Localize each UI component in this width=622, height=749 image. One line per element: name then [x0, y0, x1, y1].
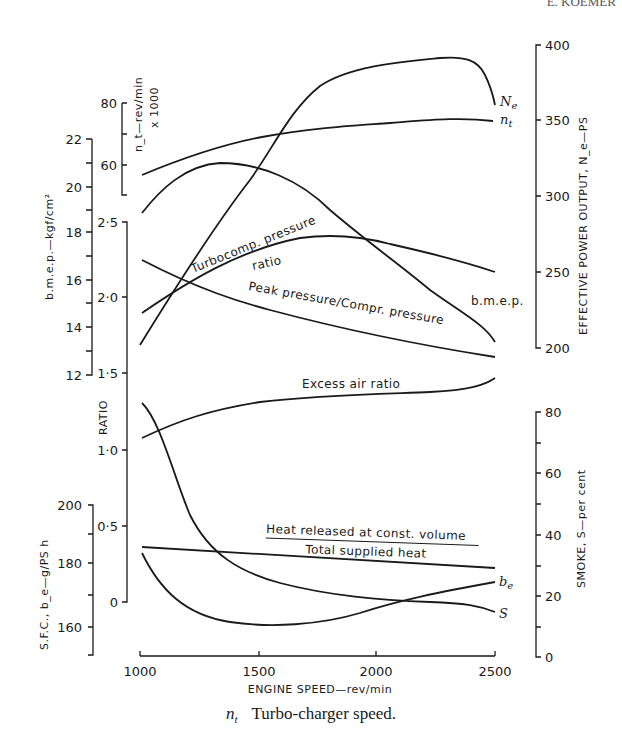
svg-text:400: 400 [545, 38, 570, 53]
svg-text:2500: 2500 [478, 664, 511, 679]
svg-text:14: 14 [65, 320, 82, 335]
svg-text:20: 20 [65, 180, 82, 195]
bmep-axis-label: b.m.e.p.—kgf/cm² [43, 193, 56, 300]
svg-text:250: 250 [545, 265, 570, 280]
svg-text:1·5: 1·5 [97, 366, 118, 381]
sfc-axis: 200 180 160 S.F.C., b_e—g/PS h [38, 498, 93, 655]
power-axis: 400 350 300 250 200 EFFECTIVE POWER OUTP… [536, 38, 590, 356]
curve-be [142, 553, 495, 625]
svg-text:0: 0 [110, 595, 118, 610]
curve-nt [142, 119, 493, 175]
svg-text:60: 60 [545, 466, 562, 481]
nt-axis-label: n_t—rev/min [132, 77, 145, 152]
svg-text:60: 60 [100, 158, 117, 173]
power-axis-label: EFFECTIVE POWER OUTPUT, N_e—PS [577, 117, 590, 335]
svg-text:Heat released at const. volume: Heat released at const. volume [266, 522, 466, 543]
label-Ne: Ne [499, 94, 517, 111]
label-nt: nt [500, 112, 513, 129]
svg-text:12: 12 [65, 368, 82, 383]
svg-text:20: 20 [545, 589, 562, 604]
svg-text:80: 80 [545, 405, 562, 420]
smoke-axis: 80 60 40 20 0 SMOKE, S—per cent [536, 405, 588, 665]
label-bmep: b.m.e.p. [471, 294, 524, 308]
svg-text:0: 0 [545, 650, 553, 665]
caption-text: Turbo-charger speed. [252, 704, 396, 723]
svg-text:1500: 1500 [242, 664, 275, 679]
svg-text:x 1000: x 1000 [148, 87, 161, 128]
label-excess-air: Excess air ratio [302, 377, 400, 391]
svg-text:2·0: 2·0 [97, 290, 118, 305]
svg-text:180: 180 [57, 556, 82, 571]
label-be: be [499, 574, 513, 591]
label-S: S [499, 606, 508, 621]
svg-text:300: 300 [545, 189, 570, 204]
svg-text:2000: 2000 [359, 664, 392, 679]
engine-performance-chart: 80 60 n_t—rev/min x 1000 22 20 18 16 14 … [0, 0, 622, 700]
ratio-axis: 2·5 2·0 1·5 1·0 0·5 0 RATIO [97, 215, 127, 610]
caption-symbol: nt [226, 704, 238, 723]
svg-text:200: 200 [545, 341, 570, 356]
x-axis-label: ENGINE SPEED—rev/min [248, 683, 393, 696]
svg-text:1·0: 1·0 [97, 443, 118, 458]
svg-text:40: 40 [545, 528, 562, 543]
svg-text:18: 18 [65, 225, 82, 240]
svg-text:200: 200 [57, 498, 82, 513]
figure-caption: ntTurbo-charger speed. [0, 704, 622, 725]
x-axis: 1000 1500 2000 2500 ENGINE SPEED—rev/min [123, 651, 511, 696]
ratio-axis-label: RATIO [97, 400, 110, 435]
smoke-axis-label: SMOKE, S—per cent [575, 469, 588, 588]
label-turbocomp-ratio: ratio [251, 253, 283, 273]
nt-axis: 80 60 n_t—rev/min x 1000 [100, 77, 161, 195]
curve-smoke [142, 403, 495, 612]
svg-text:160: 160 [57, 620, 82, 635]
svg-text:0·5: 0·5 [97, 519, 118, 534]
svg-text:350: 350 [545, 113, 570, 128]
svg-text:1000: 1000 [123, 664, 156, 679]
svg-text:22: 22 [65, 132, 82, 147]
bmep-axis: 22 20 18 16 14 12 b.m.e.p.—kgf/cm² [43, 132, 92, 383]
svg-text:80: 80 [100, 96, 117, 111]
label-peak-pressure: Peak pressure/Compr. pressure [247, 279, 445, 327]
svg-text:16: 16 [65, 273, 82, 288]
sfc-axis-label: S.F.C., b_e—g/PS h [38, 539, 51, 650]
svg-text:2·5: 2·5 [97, 215, 118, 230]
